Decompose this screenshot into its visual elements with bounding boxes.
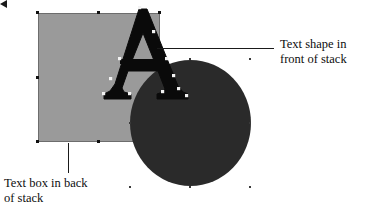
- node-handle-right-serif-outer[interactable]: [177, 87, 180, 90]
- node-handle-apex[interactable]: [138, 6, 141, 9]
- node-handle-right-upper[interactable]: [152, 30, 155, 33]
- handle-circle-bottom-left[interactable]: [129, 186, 131, 188]
- node-handle-left-lower[interactable]: [109, 77, 112, 80]
- callout-label-back: Text box in back of stack: [4, 176, 87, 206]
- handle-circle-top-center[interactable]: [189, 58, 191, 60]
- callout-label-back-line2: of stack: [4, 191, 87, 206]
- letter-a-path: [104, 9, 188, 99]
- handle-circle-bottom-center[interactable]: [189, 186, 191, 188]
- handle-rect-top-left[interactable]: [36, 11, 39, 14]
- handle-circle-top-right[interactable]: [249, 58, 251, 60]
- handle-circle-middle-left[interactable]: [129, 122, 131, 124]
- node-handle-left-foot[interactable]: [102, 92, 105, 95]
- callout-arrowhead-front: [0, 0, 7, 8]
- callout-label-front-line1: Text shape in: [280, 37, 347, 52]
- callout-label-front: Text shape in front of stack: [280, 37, 347, 67]
- handle-rect-bottom-center[interactable]: [97, 140, 100, 143]
- letter-a-crossbar-segment: [120, 59, 167, 64]
- handle-rect-middle-left[interactable]: [36, 76, 39, 79]
- callout-leader-line-front: [157, 48, 274, 49]
- callout-label-back-line1: Text box in back: [4, 176, 87, 191]
- letter-a-text-shape[interactable]: [95, 4, 189, 104]
- handle-circle-bottom-right[interactable]: [249, 186, 251, 188]
- illustration-canvas: Text shape in front of stack Text box in…: [0, 0, 371, 213]
- node-handle-right-lower[interactable]: [172, 74, 175, 77]
- handle-rect-bottom-left[interactable]: [36, 140, 39, 143]
- node-handle-right-foot[interactable]: [185, 94, 188, 97]
- node-handle-crossbar-right[interactable]: [165, 57, 168, 60]
- node-handle-right-serif-inner[interactable]: [161, 90, 164, 93]
- callout-leader-line-back: [68, 143, 69, 173]
- node-handle-left-serif-inner[interactable]: [128, 92, 131, 95]
- callout-label-front-line2: front of stack: [280, 52, 347, 67]
- handle-circle-middle-right[interactable]: [249, 122, 251, 124]
- node-handle-crossbar-left[interactable]: [118, 57, 121, 60]
